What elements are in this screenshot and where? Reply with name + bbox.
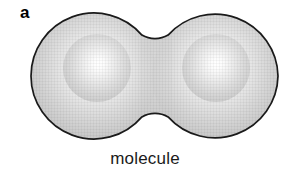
- figure-panel: a: [0, 0, 290, 177]
- figure-caption: molecule: [0, 149, 290, 169]
